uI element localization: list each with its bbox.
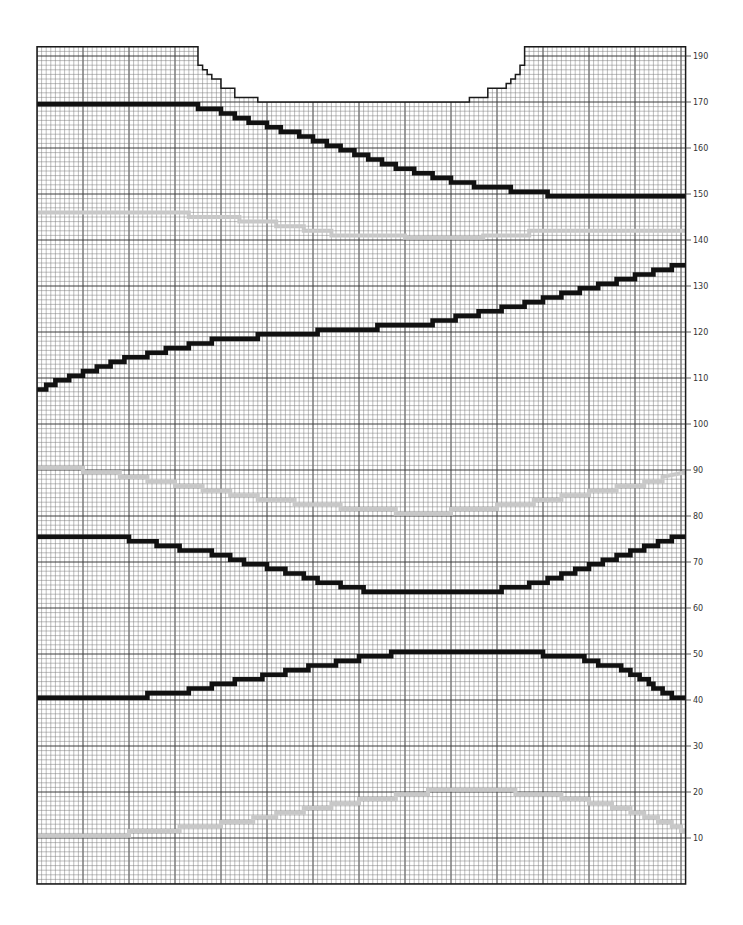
tick-label: 100 bbox=[693, 420, 708, 429]
tick-label: 60 bbox=[693, 604, 703, 613]
tick-label: 190 bbox=[693, 52, 708, 61]
light-curves bbox=[37, 212, 686, 835]
tick-label: 140 bbox=[693, 236, 708, 245]
curve-5-light bbox=[37, 212, 686, 237]
graph-paper-grid bbox=[37, 47, 686, 884]
tick-label: 130 bbox=[693, 282, 708, 291]
curve-1-dark bbox=[37, 104, 686, 196]
tick-label: 90 bbox=[693, 466, 703, 475]
curve-3-dark bbox=[37, 537, 686, 592]
tick-label: 50 bbox=[693, 650, 703, 659]
tick-label: 20 bbox=[693, 788, 703, 797]
tick-label: 40 bbox=[693, 696, 703, 705]
row-number-axis: 1901701601501401301201101009080706050403… bbox=[685, 52, 708, 843]
tick-label: 80 bbox=[693, 512, 703, 521]
knitting-chart: 1901701601501401301201101009080706050403… bbox=[0, 0, 743, 925]
tick-label: 30 bbox=[693, 742, 703, 751]
tick-label: 120 bbox=[693, 328, 708, 337]
tick-label: 110 bbox=[693, 374, 708, 383]
tick-label: 150 bbox=[693, 190, 708, 199]
tick-label: 10 bbox=[693, 834, 703, 843]
tick-label: 170 bbox=[693, 98, 708, 107]
tick-label: 160 bbox=[693, 144, 708, 153]
tick-label: 70 bbox=[693, 558, 703, 567]
